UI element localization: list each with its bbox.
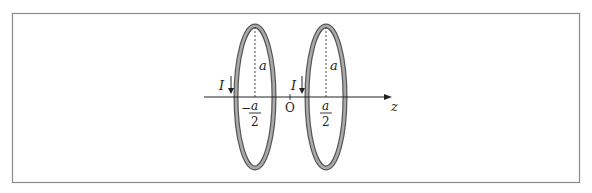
right-current-arrow-icon: [299, 76, 305, 94]
right-position-numerator: a: [322, 99, 329, 113]
origin-label: O: [285, 101, 295, 115]
right-radius-label: a: [330, 58, 338, 73]
z-axis-label: z: [390, 99, 398, 114]
figure-frame: [13, 14, 580, 183]
helmholtz-diagram: a I − a 2 a I a 2 z O: [0, 0, 592, 193]
right-current-label: I: [290, 78, 297, 93]
left-current-label: I: [218, 78, 225, 93]
left-current-arrow-icon: [228, 76, 234, 94]
z-axis: z O: [204, 94, 398, 115]
left-position-denominator: 2: [251, 115, 259, 129]
left-radius-label: a: [259, 58, 267, 73]
left-position-numerator: a: [251, 99, 258, 113]
right-position-denominator: 2: [322, 115, 330, 129]
